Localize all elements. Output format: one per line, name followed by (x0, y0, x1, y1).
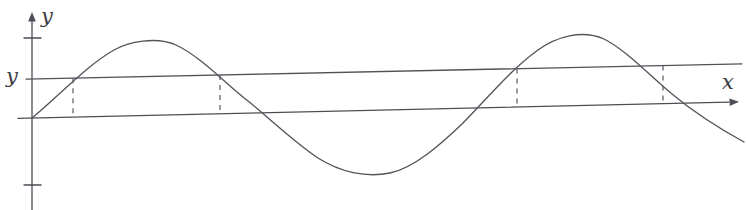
x-axis-label: x (722, 72, 734, 93)
sine-graph-figure: y x y (0, 0, 746, 210)
secant-line-upper (26, 64, 742, 79)
graph-canvas (0, 0, 746, 210)
y-level-label: y (6, 66, 18, 87)
y-axis-arrow-icon (28, 12, 36, 22)
x-axis-line (18, 102, 729, 118)
x-axis-arrow-icon (729, 98, 739, 106)
y-axis-label: y (41, 6, 53, 27)
